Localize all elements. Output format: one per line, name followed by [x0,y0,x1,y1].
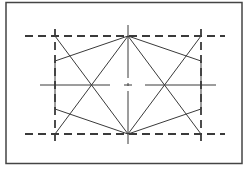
outer-frame [6,3,242,164]
center-axis-lines [40,25,216,145]
geometric-diagram [0,0,245,176]
